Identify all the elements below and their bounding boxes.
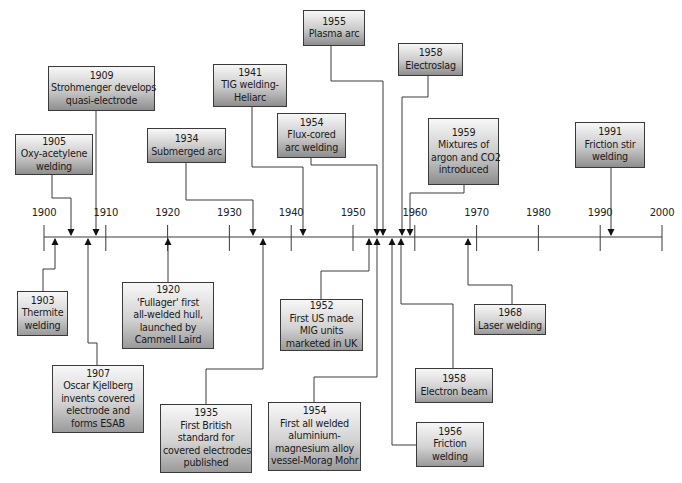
- tick-label-1960: 1960: [402, 207, 427, 218]
- event-box-1991: 1991Friction stirwelding: [575, 122, 645, 168]
- event-year: 1920: [125, 284, 211, 297]
- connector-1907: [88, 239, 97, 365]
- connector-1935: [206, 239, 263, 404]
- event-description-line: published: [163, 457, 249, 470]
- event-description-line: First all welded: [271, 418, 358, 431]
- arrow-up-icon: [389, 238, 396, 245]
- arrow-down-icon: [380, 229, 387, 236]
- event-description-line: Flux-cored: [280, 129, 343, 142]
- tick-label-1920: 1920: [155, 207, 180, 218]
- event-description-line: magnesium alloy: [271, 443, 358, 456]
- arrow-up-icon: [52, 238, 59, 245]
- arrow-up-icon: [398, 238, 405, 245]
- event-box-1903: 1903Thermitewelding: [17, 291, 68, 336]
- event-box-1955: 1955Plasma arc: [303, 10, 365, 46]
- event-year: 1954: [271, 405, 358, 418]
- event-year: 1955: [306, 16, 362, 29]
- tick-label-2000: 2000: [650, 207, 675, 218]
- event-description-line: forms ESAB: [55, 418, 141, 431]
- event-description-line: arc welding: [280, 142, 343, 155]
- arrow-down-icon: [300, 229, 307, 236]
- tick-label-1910: 1910: [93, 207, 118, 218]
- arrow-down-icon: [68, 229, 75, 236]
- event-description-line: Electron beam: [418, 386, 490, 399]
- tick-label-1900: 1900: [32, 207, 57, 218]
- event-description-line: electrode and: [55, 405, 141, 418]
- event-description-line: Submerged arc: [150, 146, 223, 159]
- event-description-line: welding: [20, 320, 65, 333]
- arrow-up-icon: [374, 238, 381, 245]
- event-description-line: Thermite: [20, 307, 65, 320]
- event-description-line: welding: [578, 151, 642, 164]
- event-description-line: covered electrodes: [163, 445, 249, 458]
- event-description-line: standard for: [163, 432, 249, 445]
- connector-1905: [52, 175, 71, 235]
- arrow-up-icon: [366, 238, 373, 245]
- event-year: 1907: [55, 368, 141, 381]
- arrow-down-icon: [407, 229, 414, 236]
- event-description-line: vessel-Morag Mohr: [271, 455, 358, 468]
- event-description-line: Oxy-acetylene: [18, 148, 90, 161]
- tick-label-1940: 1940: [279, 207, 304, 218]
- event-year: 1991: [578, 126, 642, 139]
- event-box-1954: 1954Flux-coredarc welding: [277, 113, 346, 158]
- event-description-line: Cammell Laird: [125, 334, 211, 347]
- event-description-line: TIG welding-: [216, 79, 284, 92]
- event-description-line: invents covered: [55, 393, 141, 406]
- event-description-line: marketed in UK: [283, 338, 360, 351]
- arrow-down-icon: [250, 229, 257, 236]
- event-box-1920: 1920'Fullager' firstall-welded hull,laun…: [122, 282, 214, 349]
- event-description-line: welding: [419, 451, 481, 464]
- event-year: 1956: [419, 426, 481, 439]
- event-description-line: aluminium-: [271, 430, 358, 443]
- connector-1968: [468, 239, 512, 304]
- tick-label-1950: 1950: [341, 207, 366, 218]
- event-year: 1935: [163, 407, 249, 420]
- event-description-line: MIG units: [283, 325, 360, 338]
- connector-1958: [401, 239, 453, 368]
- event-box-1952: 1952First US madeMIG unitsmarketed in UK: [280, 299, 363, 351]
- event-year: 1941: [216, 67, 284, 80]
- event-description-line: all-welded hull,: [125, 309, 211, 322]
- arrow-down-icon: [608, 229, 615, 236]
- event-box-1958: 1958Electroslag: [398, 43, 463, 76]
- event-box-1935: 1935First Britishstandard forcovered ele…: [160, 404, 252, 473]
- event-year: 1954: [280, 117, 343, 130]
- arrow-up-icon: [85, 238, 92, 245]
- event-box-1905: 1905Oxy-acetylenewelding: [15, 134, 93, 175]
- event-box-1954: 1954First all weldedaluminium-magnesium …: [268, 402, 361, 471]
- event-box-1958: 1958Electron beam: [415, 368, 493, 403]
- event-year: 1959: [431, 127, 496, 140]
- event-year: 1903: [20, 295, 65, 308]
- event-year: 1958: [401, 47, 460, 60]
- event-description-line: Friction stir: [578, 139, 642, 152]
- tick-label-1980: 1980: [526, 207, 551, 218]
- event-description-line: introduced: [431, 164, 496, 177]
- connector-1903: [43, 239, 55, 291]
- arrow-down-icon: [93, 229, 100, 236]
- event-box-1959: 1959Mixtures ofargon and CO2introduced: [428, 118, 499, 185]
- event-description-line: argon and CO2: [431, 152, 496, 165]
- event-description-line: welding: [18, 161, 90, 174]
- event-box-1909: 1909Strohmenger developsquasi-electrode: [48, 66, 155, 111]
- event-box-1968: 1968Laser welding: [474, 304, 546, 335]
- tick-label-1990: 1990: [588, 207, 613, 218]
- event-description-line: First US made: [283, 313, 360, 326]
- connector-1952: [321, 239, 369, 299]
- event-box-1956: 1956Frictionwelding: [416, 422, 484, 467]
- tick-label-1930: 1930: [217, 207, 242, 218]
- connector-1934: [186, 163, 253, 235]
- event-box-1934: 1934Submerged arc: [147, 128, 226, 163]
- event-description-line: Heliarc: [216, 92, 284, 105]
- event-description-line: launched by: [125, 322, 211, 335]
- arrow-up-icon: [465, 238, 472, 245]
- event-year: 1958: [418, 373, 490, 386]
- event-description-line: Oscar Kjellberg: [55, 380, 141, 393]
- event-description-line: Mixtures of: [431, 139, 496, 152]
- arrow-up-icon: [260, 238, 267, 245]
- event-description-line: Friction: [419, 438, 481, 451]
- event-description-line: Strohmenger develops: [51, 82, 152, 95]
- connector-1956: [392, 239, 416, 445]
- tick-label-1970: 1970: [464, 207, 489, 218]
- event-description-line: Electroslag: [401, 60, 460, 73]
